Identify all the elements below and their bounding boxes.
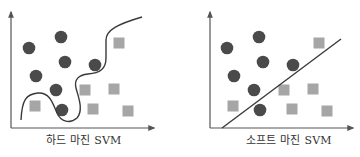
class-a-circle-point (248, 84, 261, 97)
class-b-square-point (287, 104, 298, 115)
hard-margin-svm-caption: 하드 마진 SVM (46, 131, 122, 147)
hard-margin-svm-plot (11, 12, 154, 128)
class-b-square-point (279, 85, 290, 96)
class-a-circle-point (257, 56, 270, 69)
class-a-circle-point (55, 31, 68, 44)
class-b-square-point (114, 38, 125, 49)
class-a-circle-point (30, 70, 43, 83)
class-b-square-point (314, 38, 325, 49)
class-a-circle-point (228, 70, 241, 83)
class-a-circle-point (254, 104, 267, 117)
class-a-circle-point (23, 42, 36, 55)
soft-margin-svm-plot (210, 12, 353, 128)
class-b-square-point (228, 101, 239, 112)
soft-margin-svm-caption: 소프트 마진 SVM (246, 131, 332, 147)
class-b-square-point (109, 84, 120, 95)
class-b-square-point (80, 85, 91, 96)
class-b-square-point (322, 106, 333, 117)
class-a-circle-point (221, 42, 234, 55)
class-a-circle-point (50, 84, 63, 97)
class-b-square-point (88, 104, 99, 115)
class-a-circle-point (253, 31, 266, 44)
class-b-square-point (30, 101, 41, 112)
class-a-circle-point (287, 59, 300, 72)
class-a-circle-point (59, 56, 72, 69)
class-b-square-point (123, 106, 134, 117)
class-a-circle-point (89, 59, 102, 72)
class-b-square-point (308, 84, 319, 95)
